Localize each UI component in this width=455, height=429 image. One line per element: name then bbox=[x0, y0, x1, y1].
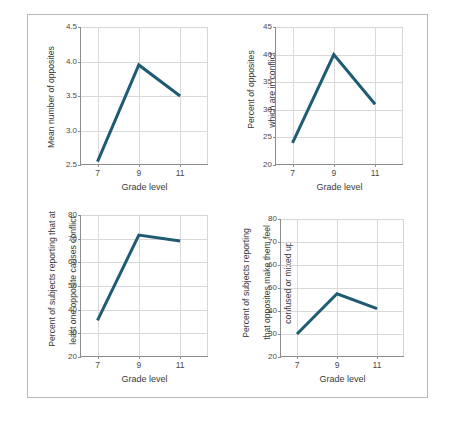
panel-4-x-axis-title: Grade level bbox=[281, 374, 404, 384]
panel-2-x-tick-label: 9 bbox=[331, 169, 336, 178]
panel-4-y-tick-label: 70 bbox=[268, 238, 277, 246]
panel-1-y-tick-mark bbox=[78, 165, 81, 166]
chart-panel-1: Mean number of opposites 2.53.03.54.04.5… bbox=[46, 23, 228, 205]
panel-3-y-tick-mark bbox=[78, 357, 81, 358]
chart-panel-3: Percent of subjects reporting that at le… bbox=[34, 211, 228, 393]
panel-4-y-tick-mark bbox=[278, 357, 281, 358]
panel-2-x-tick-label: 11 bbox=[371, 169, 380, 178]
panel-1-y-tick-label: 4.0 bbox=[66, 58, 77, 66]
panel-3-y-tick-label: 50 bbox=[68, 282, 77, 290]
panel-2-y-tick-label: 35 bbox=[263, 78, 272, 86]
panel-2-y-tick-label: 30 bbox=[263, 106, 272, 114]
panel-1-x-tick-label: 11 bbox=[176, 169, 185, 178]
panel-4-y-tick-label: 30 bbox=[268, 330, 277, 338]
panel-4-y-axis-line-1: Percent of subjects reporting bbox=[241, 228, 251, 337]
panel-3-y-tick-label: 40 bbox=[68, 306, 77, 314]
chart-panel-4: Percent of subjects reporting that oppos… bbox=[230, 215, 424, 395]
panel-1-y-tick-label: 4.5 bbox=[66, 23, 77, 31]
panel-1-x-axis-title: Grade level bbox=[81, 182, 208, 192]
panel-4-y-axis-title: Percent of subjects reporting that oppos… bbox=[230, 219, 265, 361]
panel-1-x-tick-label: 7 bbox=[95, 169, 100, 178]
panel-4-y-tick-label: 50 bbox=[268, 284, 277, 292]
panel-2-plot-area: 2025303540457911Grade level bbox=[275, 27, 403, 165]
panel-2-y-tick-mark bbox=[273, 165, 276, 166]
panel-3-y-axis-line-1: Percent of subjects reporting that at bbox=[47, 211, 57, 347]
panel-4-plot-area: 203040506070807911Grade level bbox=[280, 219, 404, 357]
panel-3-x-axis-title: Grade level bbox=[81, 374, 208, 384]
panel-4-x-tick-label: 11 bbox=[373, 361, 382, 370]
panel-4-x-tick-label: 9 bbox=[335, 361, 340, 370]
panel-3-plot-area: 203040506070807911Grade level bbox=[80, 215, 208, 357]
panel-2-y-tick-label: 45 bbox=[263, 23, 272, 31]
panel-3-data-series bbox=[81, 215, 209, 357]
panel-1-x-tick-label: 9 bbox=[136, 169, 141, 178]
panel-2-y-tick-label: 25 bbox=[263, 133, 272, 141]
panel-4-y-tick-label: 60 bbox=[268, 261, 277, 269]
panel-2-y-axis-line-1: Percent of opposites bbox=[246, 51, 256, 129]
panel-4-y-tick-label: 40 bbox=[268, 307, 277, 315]
panel-4-y-tick-label: 80 bbox=[268, 215, 277, 223]
panel-2-data-series bbox=[276, 27, 404, 165]
panel-4-data-series bbox=[281, 219, 405, 357]
chart-panel-2: Percent of opposites which are in confli… bbox=[233, 23, 423, 205]
panel-1-data-series bbox=[81, 27, 209, 165]
figure-panel-container: Mean number of opposites 2.53.03.54.04.5… bbox=[27, 14, 428, 398]
panel-2-x-axis-title: Grade level bbox=[276, 182, 403, 192]
panel-4-y-tick-label: 20 bbox=[268, 353, 277, 361]
panel-2-x-tick-label: 7 bbox=[290, 169, 295, 178]
panel-1-y-tick-label: 3.0 bbox=[66, 127, 77, 135]
panel-3-y-tick-label: 30 bbox=[68, 329, 77, 337]
panel-3-y-tick-label: 20 bbox=[68, 353, 77, 361]
panel-1-y-tick-label: 3.5 bbox=[66, 92, 77, 100]
panel-3-x-tick-label: 11 bbox=[176, 361, 185, 370]
panel-3-x-tick-label: 7 bbox=[95, 361, 100, 370]
panel-4-x-tick-label: 7 bbox=[295, 361, 300, 370]
panel-3-y-tick-label: 80 bbox=[68, 211, 77, 219]
panel-1-y-axis-title: Mean number of opposites bbox=[46, 27, 57, 167]
panel-2-y-tick-label: 20 bbox=[263, 161, 272, 169]
panel-2-y-tick-label: 40 bbox=[263, 51, 272, 59]
panel-3-y-axis-title: Percent of subjects reporting that at le… bbox=[36, 215, 60, 361]
panel-3-x-tick-label: 9 bbox=[136, 361, 141, 370]
panel-2-y-axis-title: Percent of opposites which are in confli… bbox=[235, 27, 259, 167]
panel-1-y-tick-label: 2.5 bbox=[66, 161, 77, 169]
panel-3-y-tick-label: 70 bbox=[68, 235, 77, 243]
panel-1-plot-area: 2.53.03.54.04.57911Grade level bbox=[80, 27, 208, 165]
panel-3-y-tick-label: 60 bbox=[68, 258, 77, 266]
